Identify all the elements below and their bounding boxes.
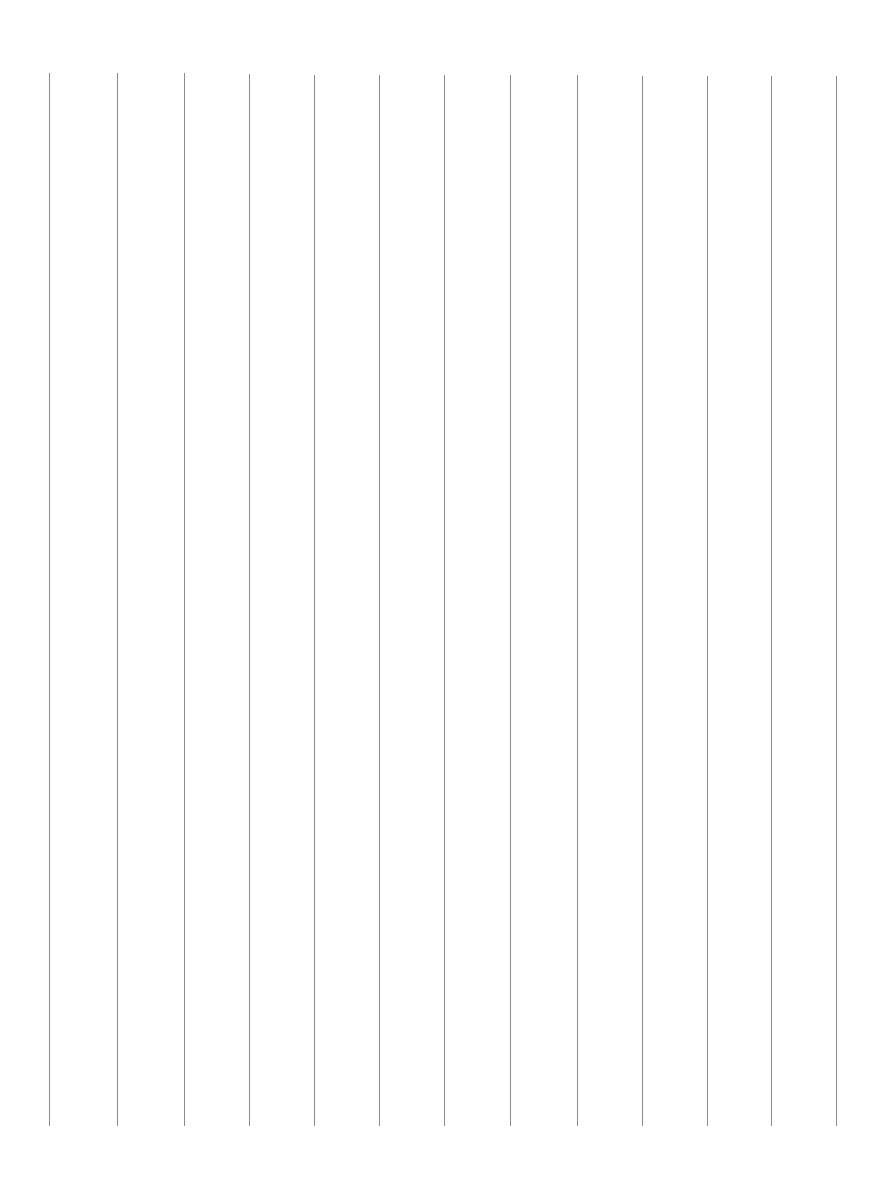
ruled-line — [707, 76, 708, 1126]
ruled-line — [642, 76, 643, 1126]
ruled-line — [577, 75, 578, 1126]
ruled-line — [444, 75, 445, 1126]
lined-paper-page — [0, 0, 893, 1179]
ruled-line — [836, 76, 837, 1126]
ruled-line — [249, 74, 250, 1126]
ruled-line — [510, 75, 511, 1126]
ruled-line — [49, 73, 50, 1126]
ruled-line — [379, 75, 380, 1126]
ruled-line — [771, 76, 772, 1126]
ruled-line — [314, 75, 315, 1126]
ruled-line — [184, 73, 185, 1126]
ruled-line — [117, 73, 118, 1126]
